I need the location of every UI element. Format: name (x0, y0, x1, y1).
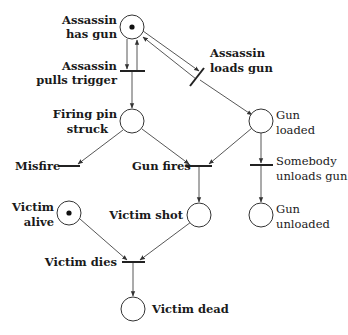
arc-has-gun-to-loads-gun (143, 31, 199, 71)
arc-gun-loaded-to-gun-fires (209, 128, 252, 164)
transition-bar-loads-gun[interactable] (190, 68, 204, 86)
place-victim-shot[interactable] (187, 203, 211, 227)
label-firing-pin-struck-2: struck (67, 122, 109, 136)
label-victim-alive-2: alive (24, 215, 54, 229)
label-assassin-has-gun-2: has gun (66, 27, 118, 41)
label-gun-unloaded-1: Gun (276, 202, 301, 216)
arc-victim-alive-to-dies (80, 219, 127, 260)
label-unloads-gun-2: unloads gun (276, 169, 348, 183)
labels: Assassin has gun Assassin pulls trigger … (11, 13, 348, 316)
place-gun-loaded[interactable] (249, 109, 273, 133)
label-firing-pin-struck-1: Firing pin (53, 107, 118, 121)
label-victim-dead: Victim dead (151, 302, 229, 316)
label-victim-alive-1: Victim (11, 200, 54, 214)
label-pulls-trigger-1: Assassin (61, 59, 118, 73)
label-loads-gun-1: Assassin (209, 46, 266, 60)
label-victim-dies: Victim dies (44, 255, 117, 269)
place-assassin-has-gun[interactable] (120, 15, 144, 39)
token-icon (66, 210, 71, 215)
place-gun-unloaded[interactable] (249, 203, 273, 227)
petri-net-diagram: Assassin has gun Assassin pulls trigger … (0, 0, 348, 335)
place-victim-dead[interactable] (121, 297, 145, 321)
label-gun-fires: Gun fires (132, 159, 191, 173)
label-gun-loaded-1: Gun (276, 108, 301, 122)
label-unloads-gun-1: Somebody (276, 154, 337, 168)
token-icon (129, 24, 134, 29)
label-misfire: Misfire (15, 159, 60, 173)
label-victim-shot: Victim shot (108, 208, 183, 222)
place-victim-alive[interactable] (57, 201, 81, 225)
arc-loads-gun-to-has-gun (143, 37, 196, 79)
label-pulls-trigger-2: pulls trigger (36, 73, 118, 87)
arc-loads-gun-to-gun-loaded (200, 80, 252, 115)
label-gun-loaded-2: loaded (276, 123, 316, 137)
label-gun-unloaded-2: unloaded (276, 217, 330, 231)
label-loads-gun-2: loads gun (210, 61, 273, 75)
label-assassin-has-gun-1: Assassin (61, 13, 118, 27)
place-firing-pin-struck[interactable] (120, 109, 144, 133)
arc-victim-shot-to-dies (140, 222, 191, 260)
